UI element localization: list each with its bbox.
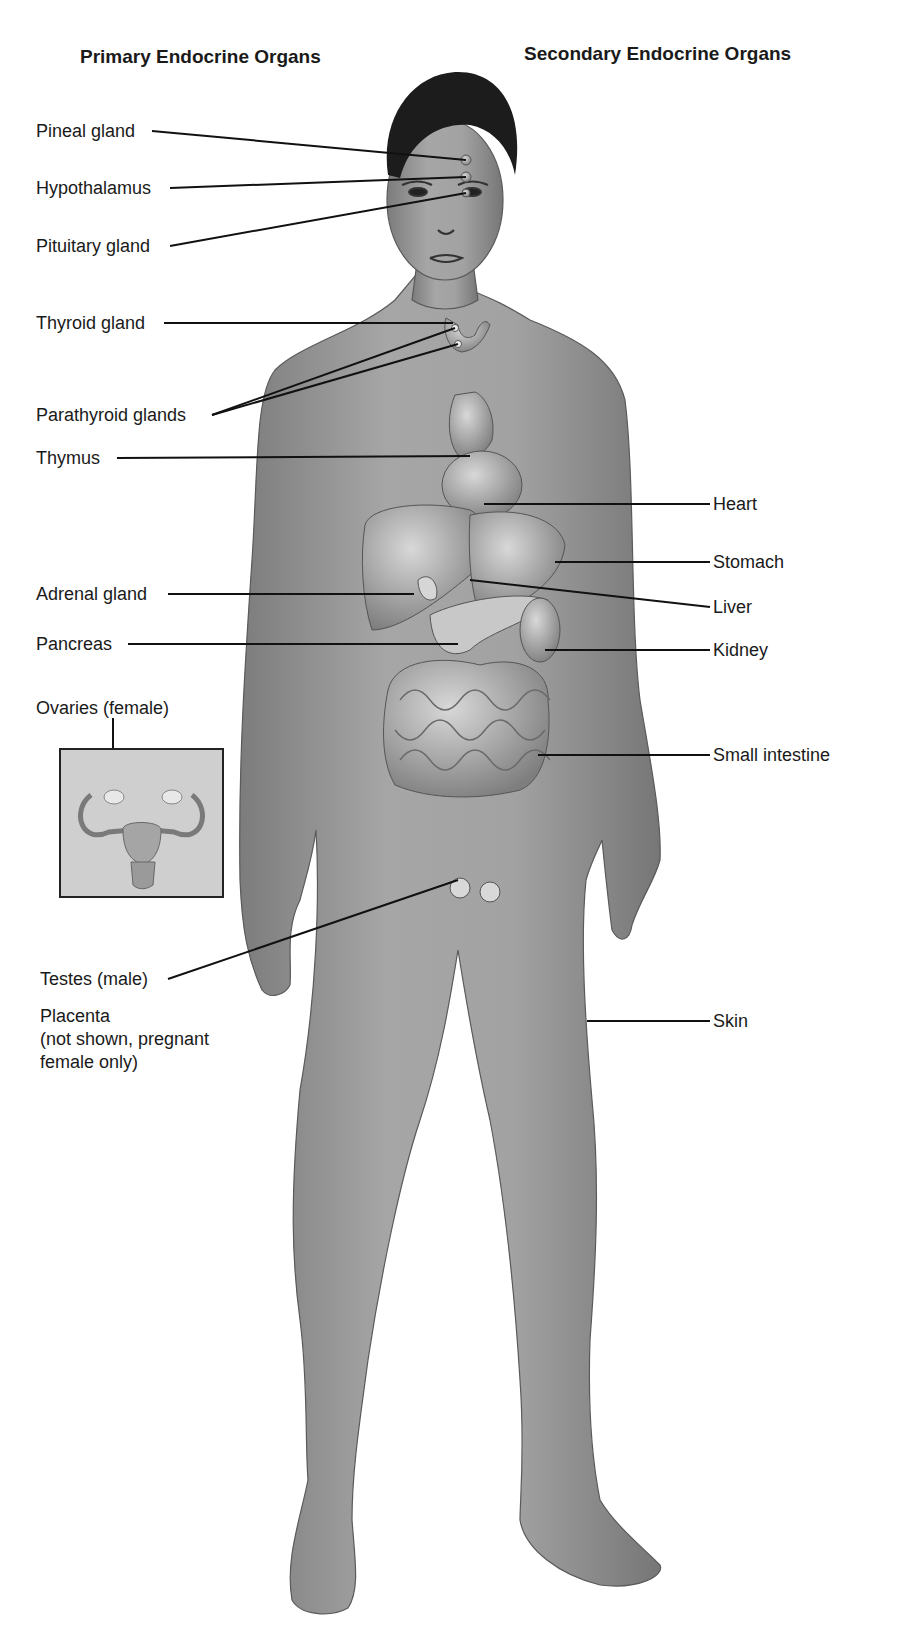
label-testes: Testes (male): [40, 968, 148, 991]
label-pituitary-gland: Pituitary gland: [36, 235, 150, 258]
label-placenta: Placenta: [40, 1005, 110, 1028]
label-pineal-gland: Pineal gland: [36, 120, 135, 143]
label-ovaries: Ovaries (female): [36, 697, 169, 720]
uterus-ovaries-illustration: [61, 750, 222, 896]
label-heart: Heart: [713, 493, 757, 516]
label-adrenal-gland: Adrenal gland: [36, 583, 147, 606]
label-liver: Liver: [713, 596, 752, 619]
ovaries-inset: [59, 748, 224, 898]
label-thymus: Thymus: [36, 447, 100, 470]
label-parathyroid-glands: Parathyroid glands: [36, 404, 186, 427]
label-pancreas: Pancreas: [36, 633, 112, 656]
label-placenta-note-2: female only): [40, 1051, 138, 1074]
label-kidney: Kidney: [713, 639, 768, 662]
label-thyroid-gland: Thyroid gland: [36, 312, 145, 335]
label-small-intestine: Small intestine: [713, 744, 830, 767]
label-stomach: Stomach: [713, 551, 784, 574]
kidney: [520, 598, 560, 662]
label-placenta-note-1: (not shown, pregnant: [40, 1028, 209, 1051]
testis: [480, 882, 500, 902]
label-skin: Skin: [713, 1010, 748, 1033]
small-intestine: [384, 660, 550, 797]
label-hypothalamus: Hypothalamus: [36, 177, 151, 200]
